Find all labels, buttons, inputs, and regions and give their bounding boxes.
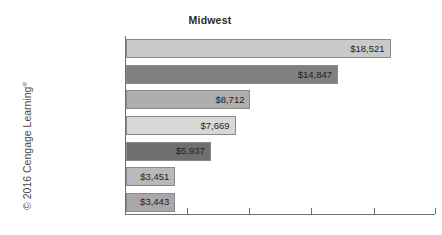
copyright-text: © 2016 Cengage Learning [21,87,33,210]
y-axis-category-labels: Child CareHousingCollege TuitionTranspor… [125,36,435,215]
chart-figure: Midwest © 2016 Cengage Learning® $18,521… [0,0,442,235]
chart-title-text: Midwest [189,14,232,26]
chart-title: Midwest [0,14,442,26]
x-axis-tick [435,208,436,214]
copyright-notice: © 2016 Cengage Learning® [21,56,33,235]
plot-area: $18,521$14,847$8,712$7,669$5,937$3,451$3… [125,36,435,215]
registered-mark-icon: ® [22,82,28,86]
